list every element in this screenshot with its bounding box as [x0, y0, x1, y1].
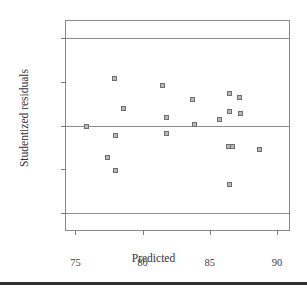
data-point	[113, 133, 118, 138]
data-point	[237, 95, 242, 100]
data-point	[217, 117, 222, 122]
y-axis-tick	[61, 38, 66, 39]
x-axis-tick	[210, 230, 211, 235]
data-point	[227, 182, 232, 187]
data-point	[227, 109, 232, 114]
data-point	[238, 111, 243, 116]
data-point	[227, 91, 232, 96]
reference-line--3	[66, 213, 289, 214]
data-point	[160, 83, 165, 88]
y-axis-tick	[61, 126, 66, 127]
bottom-rule-divider	[0, 282, 307, 285]
data-point	[190, 97, 195, 102]
x-axis-tick	[75, 230, 76, 235]
data-point	[112, 76, 117, 81]
plot-area: 3.001.500.00−1.50−3.0075808590	[65, 20, 290, 231]
reference-line-3	[66, 38, 289, 39]
data-point	[121, 106, 126, 111]
data-point	[84, 124, 89, 129]
x-axis-tick	[277, 230, 278, 235]
data-point	[164, 115, 169, 120]
data-point	[230, 144, 235, 149]
studentized-residuals-scatter-figure: 3.001.500.00−1.50−3.0075808590 Predicted…	[0, 0, 307, 292]
y-axis-tick	[61, 82, 66, 83]
y-axis-tick	[61, 213, 66, 214]
data-point	[105, 155, 110, 160]
y-axis-tick	[61, 169, 66, 170]
data-point	[192, 122, 197, 127]
zero-reference-line	[66, 126, 289, 127]
y-axis-title: Studentized residuals	[18, 18, 30, 218]
x-axis-tick	[143, 230, 144, 235]
data-point	[113, 168, 118, 173]
data-point	[164, 131, 169, 136]
data-point	[257, 147, 262, 152]
x-axis-title: Predicted	[0, 252, 307, 264]
